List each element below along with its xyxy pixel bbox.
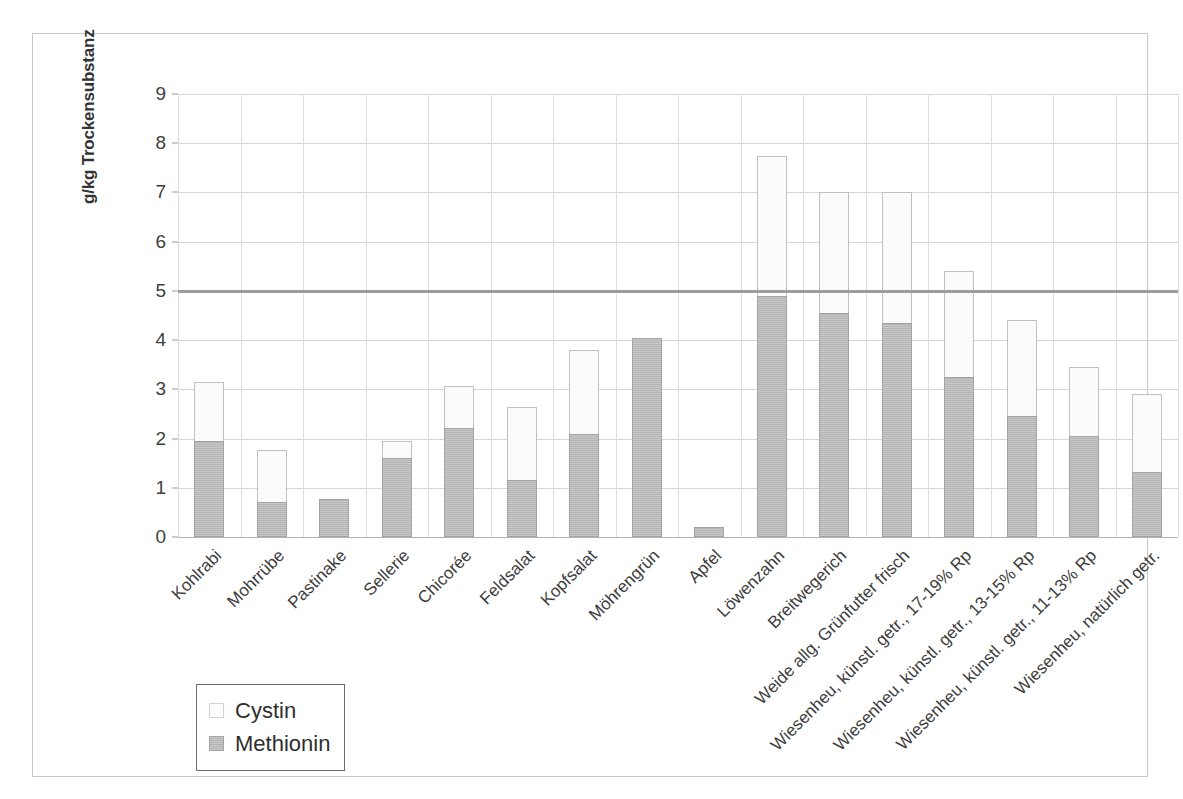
bar-group[interactable]	[678, 94, 741, 537]
bar-group[interactable]	[428, 94, 491, 537]
legend-swatch-cystin	[209, 703, 224, 718]
legend-item-methionin: Methionin	[209, 727, 330, 760]
bar-stack[interactable]	[382, 441, 412, 537]
bar-stack[interactable]	[194, 382, 224, 537]
bar-stack[interactable]	[1132, 394, 1162, 537]
x-axis-label: Kohlrabi	[168, 539, 233, 604]
bar-stack[interactable]	[507, 407, 537, 537]
x-axis-label-text: Sellerie	[360, 539, 421, 600]
x-axis-label: Apfel	[685, 539, 734, 588]
bar-stack[interactable]	[757, 156, 787, 537]
bar-stack[interactable]	[882, 192, 912, 537]
y-tick-label: 8	[155, 132, 166, 154]
bar-group[interactable]	[553, 94, 616, 537]
x-gridline	[1178, 94, 1179, 537]
bar-segment-methionin[interactable]	[819, 313, 849, 537]
bar-segment-methionin[interactable]	[382, 458, 412, 537]
legend-label-cystin: Cystin	[235, 698, 296, 724]
bar-segment-methionin[interactable]	[507, 480, 537, 537]
y-axis-title: g/kg Trockensubstanz	[79, 0, 99, 204]
x-axis-label: Chicorée	[414, 539, 483, 608]
x-axis-label-text: Feldsalat	[476, 539, 546, 609]
bar-stack[interactable]	[632, 338, 662, 537]
bar-segment-methionin[interactable]	[757, 296, 787, 537]
x-axis-label: Sellerie	[360, 539, 421, 600]
x-axis-label: Feldsalat	[476, 539, 546, 609]
bar-segment-methionin[interactable]	[569, 434, 599, 537]
bar-segment-methionin[interactable]	[194, 441, 224, 537]
x-axis-label-text: Chicorée	[414, 539, 483, 608]
bar-segment-cystin[interactable]	[507, 407, 537, 481]
x-axis-label: Mohrrübe	[223, 539, 296, 612]
bar-stack[interactable]	[944, 271, 974, 537]
bar-stack[interactable]	[319, 499, 349, 537]
legend-label-methionin: Methionin	[235, 731, 330, 757]
y-tick-label: 3	[155, 378, 166, 400]
y-tick-label: 9	[155, 83, 166, 105]
bar-stack[interactable]	[1007, 320, 1037, 537]
bar-stack[interactable]	[1069, 367, 1099, 537]
chart-frame: g/kg Trockensubstanz 0123456789 Kohlrabi…	[32, 33, 1148, 777]
bar-segment-cystin[interactable]	[569, 350, 599, 434]
bar-group[interactable]	[991, 94, 1054, 537]
y-tick-label: 6	[155, 231, 166, 253]
bar-segment-cystin[interactable]	[194, 382, 224, 441]
bar-segment-cystin[interactable]	[1132, 394, 1162, 472]
bar-segment-methionin[interactable]	[444, 428, 474, 537]
bar-group[interactable]	[1053, 94, 1116, 537]
bar-group[interactable]	[1116, 94, 1179, 537]
bar-stack[interactable]	[819, 192, 849, 537]
bar-stack[interactable]	[257, 450, 287, 537]
y-tick-label: 2	[155, 428, 166, 450]
legend-item-cystin: Cystin	[209, 694, 330, 727]
y-tick-label: 0	[155, 526, 166, 548]
x-axis-label-text: Apfel	[685, 539, 734, 588]
x-axis-label-text: Kohlrabi	[168, 539, 233, 604]
bar-segment-methionin[interactable]	[319, 499, 349, 537]
bar-segment-cystin[interactable]	[382, 441, 412, 458]
bar-stack[interactable]	[569, 350, 599, 537]
bar-segment-methionin[interactable]	[1132, 472, 1162, 537]
y-axis-title-text: g/kg Trockensubstanz	[79, 29, 99, 204]
bar-segment-methionin[interactable]	[632, 338, 662, 537]
bar-segment-cystin[interactable]	[944, 271, 974, 377]
y-gridline	[178, 537, 1178, 538]
bar-segment-methionin[interactable]	[882, 323, 912, 537]
plot-area: 0123456789	[178, 94, 1178, 537]
bar-segment-cystin[interactable]	[444, 386, 474, 428]
bar-segment-methionin[interactable]	[944, 377, 974, 537]
bar-segment-methionin[interactable]	[257, 502, 287, 537]
y-tick-label: 5	[155, 280, 166, 302]
bar-group[interactable]	[366, 94, 429, 537]
bar-segment-cystin[interactable]	[819, 192, 849, 313]
bar-group[interactable]	[803, 94, 866, 537]
bar-group[interactable]	[616, 94, 679, 537]
x-axis-label-text: Pastinake	[284, 539, 358, 613]
bar-segment-methionin[interactable]	[694, 527, 724, 537]
y-tick-label: 4	[155, 329, 166, 351]
x-axis-label-text: Mohrrübe	[223, 539, 296, 612]
bar-group[interactable]	[491, 94, 554, 537]
bar-segment-cystin[interactable]	[1069, 367, 1099, 436]
bar-group[interactable]	[928, 94, 991, 537]
bar-segment-cystin[interactable]	[882, 192, 912, 322]
reference-line	[178, 290, 1178, 293]
chart-legend: Cystin Methionin	[196, 684, 345, 771]
bar-stack[interactable]	[694, 527, 724, 537]
bar-segment-cystin[interactable]	[757, 156, 787, 296]
y-tick-label: 7	[155, 181, 166, 203]
bar-group[interactable]	[178, 94, 241, 537]
bar-segment-methionin[interactable]	[1007, 416, 1037, 537]
bar-segment-cystin[interactable]	[1007, 320, 1037, 416]
legend-swatch-methionin	[209, 736, 224, 751]
y-tick-label: 1	[155, 477, 166, 499]
bar-group[interactable]	[741, 94, 804, 537]
bar-group[interactable]	[866, 94, 929, 537]
bar-group[interactable]	[303, 94, 366, 537]
x-axis-label: Pastinake	[284, 539, 358, 613]
bar-group[interactable]	[241, 94, 304, 537]
bar-stack[interactable]	[444, 386, 474, 537]
bar-segment-methionin[interactable]	[1069, 436, 1099, 537]
bar-segment-cystin[interactable]	[257, 450, 287, 502]
